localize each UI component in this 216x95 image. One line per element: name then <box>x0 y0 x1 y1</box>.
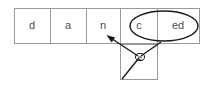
cell-label-a: a <box>65 19 72 31</box>
cell-label-c: c <box>136 19 142 31</box>
lower-cell-label: e <box>138 53 143 62</box>
diagram-canvas: d a n c ed e <box>0 0 216 95</box>
diagram-vector-layer: d a n c ed e <box>0 0 216 95</box>
cell-label-ed: ed <box>172 19 184 31</box>
cell-label-n: n <box>100 19 106 31</box>
cell-label-d: d <box>29 19 35 31</box>
